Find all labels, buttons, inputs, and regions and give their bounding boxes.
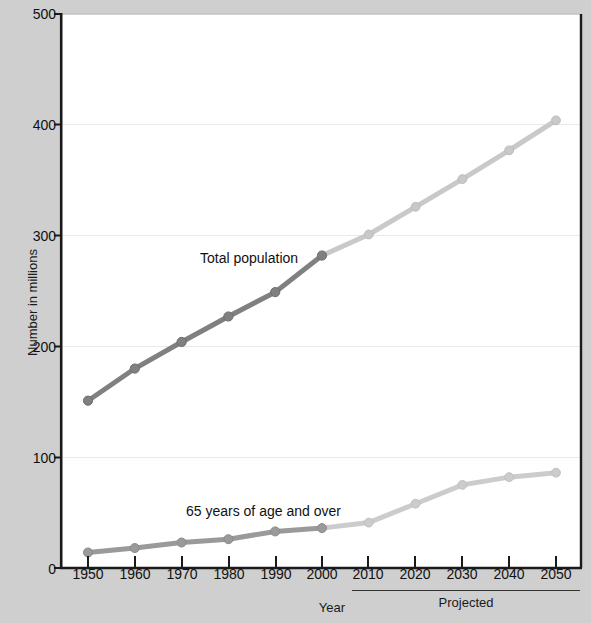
x-axis-tick-labels: 1950 1960 1970 1980 1990 2000 2010 2020 … [0, 0, 591, 623]
population-line-chart: Number in millions 500 400 300 200 100 0… [0, 0, 591, 623]
series-label-total-population: Total population [200, 250, 298, 266]
projected-label: Projected [352, 595, 580, 610]
x-tick-label: 2050 [526, 566, 586, 582]
series-label-over-65: 65 years of age and over [186, 503, 341, 519]
projected-range-rule [352, 590, 580, 591]
